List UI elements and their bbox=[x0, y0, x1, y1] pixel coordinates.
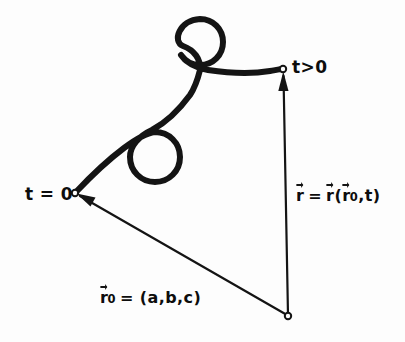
vector-r0-symbol: r bbox=[100, 283, 108, 306]
vector-r-arrowhead bbox=[278, 72, 288, 92]
close-paren: ) bbox=[373, 181, 381, 204]
label-t-greater-zero: t>0 bbox=[292, 59, 327, 76]
trajectory-diagram bbox=[0, 0, 405, 342]
marker-apex-origin bbox=[285, 313, 291, 319]
marker-endpoint-tgt0 bbox=[280, 66, 286, 72]
vector-r0-arrowhead bbox=[77, 194, 96, 207]
vector-r-symbol: r bbox=[296, 181, 304, 204]
open-paren: ( bbox=[334, 181, 342, 204]
vector-r-group bbox=[278, 72, 288, 316]
subscript-zero: 0 bbox=[350, 185, 358, 204]
label-initial-vector-equation: r 0 = (a,b,c) bbox=[100, 283, 201, 306]
label-t-equals-zero: t = 0 bbox=[25, 186, 73, 203]
trajectory-path-group bbox=[76, 19, 283, 192]
initial-vector-value: = (a,b,c) bbox=[120, 283, 201, 306]
vector-r-shaft bbox=[284, 76, 289, 315]
vector-r-function-symbol: r bbox=[326, 181, 334, 204]
figure-canvas: t = 0 t>0 r = r ( bbox=[0, 0, 405, 342]
label-position-vector-equation: r = r ( r 0 ,t ) bbox=[296, 181, 380, 204]
equals-sign: = bbox=[308, 181, 322, 204]
trajectory-curve bbox=[76, 19, 283, 192]
vector-r0-symbol: r bbox=[342, 181, 350, 204]
comma-t: ,t bbox=[358, 181, 373, 204]
subscript-zero: 0 bbox=[108, 287, 116, 306]
